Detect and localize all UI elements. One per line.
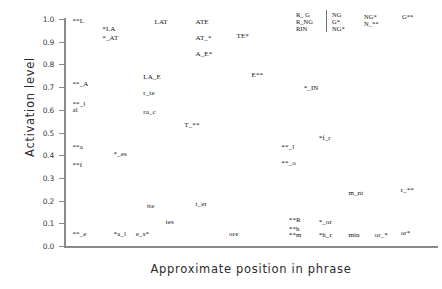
y-axis-tick-label: 0.2 [28, 197, 54, 206]
legend-entry: NG [332, 11, 345, 18]
data-point-label: ATE [196, 18, 209, 26]
legend-column: G** [402, 13, 413, 20]
data-point-label: or* [401, 229, 411, 237]
data-point-label: LAT [155, 18, 168, 26]
data-point-label: T_** [184, 121, 199, 129]
legend-entry: NG* [332, 25, 345, 32]
legend-entry: G* [332, 18, 345, 25]
y-axis-tick [59, 110, 64, 111]
data-point-label: ra_c [143, 108, 155, 116]
y-axis-tick [59, 64, 64, 65]
data-point-label: *f_r [319, 134, 331, 142]
y-axis-tick [59, 246, 64, 247]
y-axis-tick [59, 133, 64, 134]
y-axis-tick [59, 178, 64, 179]
data-point-label: **R [289, 216, 301, 224]
y-axis-tick-label: 0.8 [28, 60, 54, 69]
data-point-label: **_l [281, 143, 294, 151]
data-point-label: *h_r [319, 231, 332, 239]
y-axis-tick [59, 42, 64, 43]
y-axis-tick-label: 0.7 [28, 83, 54, 92]
data-point-label: tes [166, 218, 174, 226]
data-point-label: LA_E [143, 73, 161, 81]
data-point-label: t_er [196, 200, 207, 208]
legend-entry: R_ G [296, 11, 313, 18]
data-point-label: r_te [143, 89, 154, 97]
scatter-plot: Activation level Approximate position in… [0, 0, 442, 289]
legend-column: NG*N_** [364, 13, 378, 27]
data-point-label: **m [289, 231, 302, 239]
y-axis-tick [59, 155, 64, 156]
data-point-label: **L [72, 17, 84, 25]
y-axis-tick [59, 87, 64, 88]
y-axis-tick-label: 1.0 [28, 15, 54, 24]
y-axis-tick-label: 0.5 [28, 129, 54, 138]
legend-column: R_ GR_NGRIN [296, 11, 313, 33]
data-point-label: **_A [72, 80, 88, 88]
legend-divider [326, 10, 327, 32]
data-point-label: e_s* [136, 230, 149, 238]
y-axis-tick [59, 223, 64, 224]
data-point-label: m_nt [348, 189, 363, 197]
y-axis-tick [59, 19, 64, 20]
legend-entry: NG* [364, 13, 378, 20]
y-axis-tick [59, 201, 64, 202]
data-point-label: A_E* [196, 50, 213, 58]
data-point-label: *_IN [304, 84, 319, 92]
data-point-label: al [72, 106, 77, 114]
data-point-label: *_AT [102, 34, 118, 42]
data-point-label: AT_* [196, 34, 212, 42]
legend-entry: RIN [296, 25, 313, 32]
data-point-label: E** [252, 71, 264, 79]
x-axis-title: Approximate position in phrase [64, 262, 438, 276]
data-point-label: r_** [401, 186, 414, 194]
legend-entry: R_NG [296, 18, 313, 25]
data-point-label: **_o [281, 159, 295, 167]
legend-column: NGG*NG* [332, 11, 345, 33]
y-axis-tick-label: 0.6 [28, 106, 54, 115]
x-axis-line [64, 246, 438, 248]
data-point-label: tte [147, 202, 154, 210]
y-axis-tick-label: 0.9 [28, 38, 54, 47]
data-point-label: or_* [375, 231, 388, 239]
y-axis-line [64, 18, 66, 246]
data-point-label: **a [72, 143, 82, 151]
data-point-label: min [348, 231, 359, 239]
data-point-label: *_es [113, 150, 126, 158]
data-point-label: **f [72, 161, 82, 169]
y-axis-tick-label: 0.4 [28, 151, 54, 160]
data-point-label: *a_l [113, 230, 125, 238]
data-point-label: **_e [72, 230, 86, 238]
legend-entry: N_** [364, 20, 378, 27]
y-axis-tick-label: 0.1 [28, 219, 54, 228]
legend-cluster: R_ GR_NGRINNGG*NG*NG*N_**G** [296, 9, 438, 39]
data-point-label: ore [229, 230, 238, 238]
data-point-label: TE* [237, 32, 249, 40]
data-point-label: *LA [102, 25, 115, 33]
y-axis-tick-label: 0.3 [28, 174, 54, 183]
data-point-label: *_or [319, 218, 332, 226]
legend-entry: G** [402, 13, 413, 20]
y-axis-tick-label: 0.0 [28, 242, 54, 251]
